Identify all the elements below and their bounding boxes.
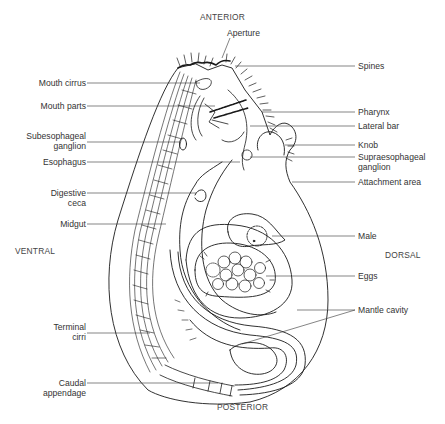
label-male: Male (358, 231, 377, 241)
label-midgut: Midgut (60, 219, 86, 229)
label-mouth-cirrus: Mouth cirrus (39, 78, 86, 88)
label-subesophageal-ganglion: Subesophageal ganglion (26, 131, 86, 151)
label-lateral-bar: Lateral bar (358, 121, 399, 131)
label-mouth-parts: Mouth parts (41, 101, 86, 111)
label-supraesophageal-ganglion: Supraesophageal ganglion (358, 152, 425, 172)
anterior-label: ANTERIOR (200, 12, 245, 22)
ventral-label: VENTRAL (15, 246, 55, 256)
label-spines: Spines (358, 61, 384, 71)
label-caudal-appendage: Caudal appendage (43, 378, 86, 398)
posterior-label: POSTERIOR (217, 402, 268, 412)
label-terminal-cirri: Terminal cirri (54, 322, 86, 342)
label-attachment-area: Attachment area (358, 177, 421, 187)
label-eggs: Eggs (358, 271, 378, 281)
anatomy-diagram: ANTERIOR POSTERIOR VENTRAL DORSAL Apertu… (0, 0, 445, 424)
label-aperture: Aperture (227, 28, 260, 38)
label-mantle-cavity: Mantle cavity (358, 305, 408, 315)
label-esophagus: Esophagus (43, 157, 86, 167)
label-pharynx: Pharynx (358, 107, 390, 117)
dorsal-label: DORSAL (385, 250, 421, 260)
label-digestive-ceca: Digestive ceca (51, 188, 86, 208)
label-knob: Knob (358, 140, 378, 150)
